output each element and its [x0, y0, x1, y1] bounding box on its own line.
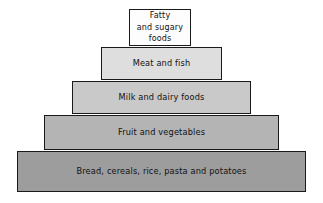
pyramid-tier-label: Bread, cereals, rice, pasta and potatoes [18, 166, 305, 178]
pyramid-tier-label: Milk and dairy foods [73, 92, 250, 104]
food-pyramid-diagram: Fatty and sugary foods Meat and fish Mil… [0, 0, 323, 203]
pyramid-tier-meat-and-fish: Meat and fish [101, 47, 222, 80]
pyramid-tier-label: Fruit and vegetables [45, 127, 278, 139]
pyramid-tier-label: Meat and fish [102, 58, 221, 70]
pyramid-tier-label: Fatty and sugary foods [130, 10, 190, 45]
pyramid-tier-bread-cereals-rice-pasta-and-potatoes: Bread, cereals, rice, pasta and potatoes [17, 151, 306, 192]
pyramid-tier-fatty-and-sugary-foods: Fatty and sugary foods [129, 9, 191, 46]
pyramid-tier-milk-and-dairy-foods: Milk and dairy foods [72, 81, 251, 114]
pyramid-tier-fruit-and-vegetables: Fruit and vegetables [44, 115, 279, 150]
